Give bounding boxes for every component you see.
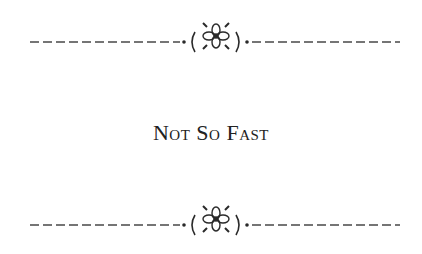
section-title: Not So Fast xyxy=(0,120,422,146)
floral-divider-icon xyxy=(0,199,422,239)
bottom-floral-divider xyxy=(0,199,422,239)
floral-divider-icon xyxy=(0,16,422,56)
top-floral-divider xyxy=(0,16,422,56)
